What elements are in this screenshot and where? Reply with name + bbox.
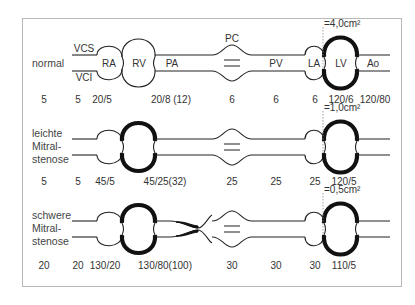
pressure-value: 120/80: [360, 94, 391, 105]
capillary-lines: [224, 60, 240, 66]
left-atrium: [305, 130, 324, 164]
pressure-value: 130/80(100): [138, 260, 192, 271]
label-lv: LV: [335, 58, 347, 69]
label-pc: PC: [225, 33, 239, 44]
pulmonary-vein: [252, 221, 305, 237]
circulation-diagram: normal=4,0cm²VCSVCIRARVPAPCPVLALVAo5520/…: [0, 0, 415, 305]
label-rv: RV: [132, 58, 146, 69]
right-atrium: [97, 212, 122, 246]
row-label: Mitral-: [32, 222, 62, 234]
label-vci: VCI: [76, 72, 93, 83]
pressure-value: 6: [229, 94, 235, 105]
pressure-value: 110/5: [332, 260, 357, 271]
vessel-thickening: [176, 230, 198, 236]
valve-notch: [324, 223, 357, 235]
pressure-value: 20: [38, 260, 50, 271]
row-label: schwere: [32, 209, 71, 221]
valve-area-label: =1,0cm²: [324, 102, 361, 113]
pulmonary-artery-upper: [155, 215, 212, 228]
pressure-value: 5: [75, 94, 81, 105]
pressure-value: 5: [41, 94, 47, 105]
pressure-value: 30: [270, 260, 282, 271]
row-label: Mitral-: [32, 140, 62, 152]
pressure-value: 6: [312, 94, 318, 105]
left-atrium: [305, 212, 324, 246]
pressure-value: 5: [41, 176, 47, 187]
right-ventricle: [122, 123, 155, 171]
valve-notch: [122, 223, 155, 235]
pulmonary-vein: [252, 139, 305, 155]
row-label: normal: [32, 57, 64, 69]
capillary-lines: [224, 144, 240, 150]
label-pa: PA: [166, 58, 179, 69]
valve-notch: [324, 141, 357, 153]
capillary-lines: [224, 226, 240, 232]
valve-area-label: =0,5cm²: [324, 184, 361, 195]
pressure-value: 30: [226, 260, 238, 271]
pressure-value: 25: [226, 176, 238, 187]
pulmonary-capillary-upper: [212, 129, 252, 139]
valve-area-label: =4,0cm²: [324, 18, 361, 29]
pressure-value: 130/20: [90, 260, 121, 271]
aorta: [357, 221, 390, 237]
pulmonary-capillary-lower: [212, 237, 252, 247]
pulmonary-capillary-upper: [212, 211, 252, 221]
vessel-thickening: [176, 222, 198, 228]
pressure-value: 20/5: [92, 94, 112, 105]
right-ventricle: [122, 205, 155, 253]
pressure-value: 25: [309, 176, 321, 187]
pressure-value: 5: [75, 176, 81, 187]
pressure-value: 45/25(32): [144, 176, 187, 187]
row-label: leichte: [32, 127, 63, 139]
label-pv: PV: [269, 58, 283, 69]
pressure-value: 45/5: [95, 176, 115, 187]
pressure-value: 25: [270, 176, 282, 187]
valve-notch: [122, 141, 155, 153]
row-label: stenose: [32, 235, 69, 247]
aorta: [357, 139, 390, 155]
pressure-value: 30: [309, 260, 321, 271]
pulmonary-artery-lower: [155, 230, 212, 243]
pressure-value: 20/8 (12): [151, 94, 191, 105]
left-ventricle: [324, 204, 357, 255]
pulmonary-capillary-lower: [212, 71, 252, 81]
left-ventricle: [324, 122, 357, 173]
label-ra: RA: [102, 58, 116, 69]
right-atrium: [97, 130, 122, 164]
pulmonary-capillary-upper: [212, 45, 252, 55]
pressure-value: 6: [273, 94, 279, 105]
label-vcs: VCS: [74, 43, 95, 54]
label-ao: Ao: [367, 58, 380, 69]
row-label: stenose: [32, 153, 69, 165]
pressure-value: 20: [72, 260, 84, 271]
label-la: LA: [308, 58, 321, 69]
pulmonary-capillary-lower: [212, 155, 252, 165]
